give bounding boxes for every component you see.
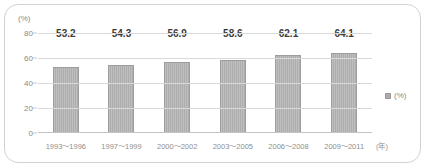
y-tick-mark <box>33 58 37 59</box>
y-tick-label: 80 <box>24 29 33 38</box>
x-axis-unit-label: (年) <box>376 140 388 151</box>
y-tick-mark <box>33 133 37 134</box>
bar <box>53 67 79 134</box>
bar <box>275 55 301 133</box>
square-marker-icon <box>385 93 391 99</box>
gridline <box>38 33 372 34</box>
x-tick-label: 2006～2008 <box>268 140 308 151</box>
y-tick-label: 0 <box>29 129 33 138</box>
bar <box>331 53 357 133</box>
y-tick-label: 20 <box>24 104 33 113</box>
plot-area: 53.21993～199654.31997～199956.92000～20025… <box>38 33 372 133</box>
bar <box>108 65 134 133</box>
chart-legend: (%) <box>385 91 406 100</box>
gridline <box>38 58 372 59</box>
x-tick-label: 2000～2002 <box>157 140 197 151</box>
x-tick-label: 1997～1999 <box>101 140 141 151</box>
axis-baseline <box>38 132 372 133</box>
x-tick-label: 2003～2005 <box>213 140 253 151</box>
y-axis-unit-label: (%) <box>18 14 30 23</box>
bar <box>164 62 190 133</box>
gridline <box>38 83 372 84</box>
x-tick-label: 2009～2011 <box>324 140 364 151</box>
y-tick-mark <box>33 83 37 84</box>
x-tick-label: 1993～1996 <box>46 140 86 151</box>
y-tick-label: 60 <box>24 54 33 63</box>
y-tick-mark <box>33 108 37 109</box>
bar <box>220 60 246 133</box>
chart-figure: (%) 53.21993～199654.31997～199956.92000～2… <box>0 0 425 167</box>
y-tick-mark <box>33 33 37 34</box>
legend-label: (%) <box>394 91 406 100</box>
gridline <box>38 108 372 109</box>
y-tick-label: 40 <box>24 79 33 88</box>
